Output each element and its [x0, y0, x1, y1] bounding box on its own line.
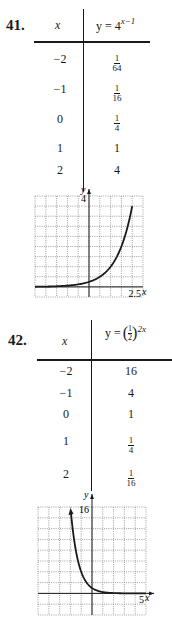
curve-arrow-icon [69, 508, 74, 515]
graph-42: y165x [0, 0, 172, 635]
function-curve [71, 512, 146, 594]
y-axis-label: y [83, 489, 89, 500]
y-axis-arrow-icon [90, 494, 94, 499]
y-tick-label: 16 [79, 504, 89, 515]
x-tick-label: 5 [139, 594, 144, 605]
x-axis-arrow-icon [149, 591, 154, 595]
